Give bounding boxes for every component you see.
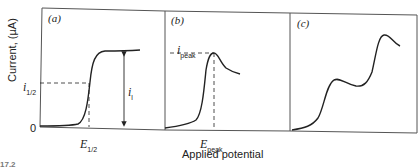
panel-c-curve — [292, 35, 400, 130]
e-half-label: E1/2 — [80, 134, 97, 153]
i-peak-label: ipeak — [177, 40, 196, 59]
y-zero-tick: 0 — [30, 122, 36, 134]
i-limit-label: il — [128, 82, 133, 101]
e-peak-label: Epeak — [200, 134, 223, 153]
panel-a-curve — [40, 50, 140, 126]
panel-b-frame — [165, 11, 290, 131]
y-axis-label: Current, (µA) — [6, 18, 18, 82]
panel-a-label: (a) — [48, 12, 61, 24]
panel-b-label: (b) — [171, 14, 184, 26]
panel-c-label: (c) — [297, 17, 309, 29]
panel-b-curve — [165, 53, 240, 128]
panel-a-frame — [40, 8, 165, 130]
figure-number: 17.2 — [0, 160, 16, 168]
i-half-label: i1/2 — [23, 77, 36, 96]
panel-c-frame — [290, 13, 417, 133]
